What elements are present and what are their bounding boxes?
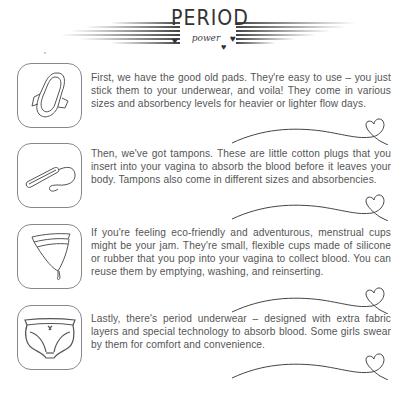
speed-lines-left (60, 22, 180, 46)
tampon-icon (17, 143, 82, 208)
item-text: Then, we've got tampons. These are littl… (91, 147, 391, 186)
heart-swirl-icon (232, 115, 392, 145)
item-text: Lastly, there's period underwear – desig… (91, 312, 391, 351)
menstrual-cup-icon (17, 224, 82, 289)
pad-icon (17, 63, 82, 128)
heart-icon: ♥ (230, 34, 236, 44)
page-title: PERIOD (171, 5, 241, 29)
speed-lines-right (236, 22, 356, 46)
item-text: First, we have the good old pads. They'r… (91, 71, 391, 110)
heart-icon: ♥ (172, 36, 178, 46)
period-underwear-icon (17, 305, 82, 370)
heart-swirl-icon (232, 284, 392, 314)
heart-icon: ♥ (221, 43, 226, 52)
decorative-dot (44, 52, 46, 54)
page-subtitle: power (186, 33, 226, 43)
header-banner: PERIOD power ♥ ♥ ♥ (0, 0, 406, 52)
heart-swirl-icon (232, 350, 392, 380)
heart-swirl-icon (232, 191, 392, 221)
item-text: If you're feeling eco-friendly and adven… (91, 226, 391, 278)
